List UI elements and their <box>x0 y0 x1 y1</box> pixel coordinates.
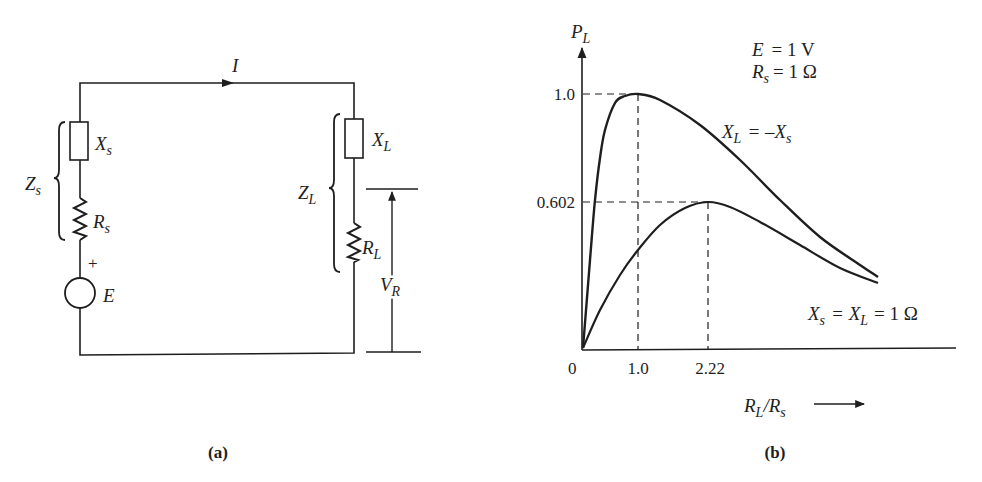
y-axis-label: PL <box>570 21 591 46</box>
power-chart: PL RL/Rs 0 1.0 2.22 1.0 0.602 E= 1 V Rs=… <box>537 21 956 462</box>
source-brace-icon <box>54 122 65 240</box>
source-reactance-box <box>70 122 88 160</box>
circuit-diagram: I + Xs Rs Zs E XL RL ZL VR (a) <box>25 55 421 462</box>
load-brace-icon <box>329 114 340 272</box>
tick-y-1: 1.0 <box>554 85 575 104</box>
curve1-label: XL= –Xs <box>721 121 792 146</box>
curve2-label: Xs= XL= 1 Ω <box>807 303 918 328</box>
vr-label: VR <box>380 274 401 299</box>
current-arrow-icon <box>222 79 234 87</box>
load-reactance-label: XL <box>371 129 392 154</box>
emf-label: E <box>102 285 115 306</box>
tick-x-1: 1.0 <box>627 359 648 378</box>
param-e: E= 1 V <box>751 39 815 60</box>
current-label: I <box>231 55 240 76</box>
load-resistor-icon <box>348 223 360 262</box>
tick-y-0-602: 0.602 <box>537 193 575 212</box>
voltage-source-icon <box>65 278 95 308</box>
param-rs: Rs= 1 Ω <box>751 61 817 86</box>
load-reactance-box <box>345 119 363 158</box>
tick-origin: 0 <box>568 359 577 378</box>
source-resistance-label: Rs <box>92 211 111 236</box>
caption-b: (b) <box>765 443 786 462</box>
tick-x-2-22: 2.22 <box>695 359 725 378</box>
polarity-plus: + <box>88 254 98 273</box>
curve-equal-reactance <box>583 202 878 348</box>
source-reactance-label: Xs <box>94 133 113 158</box>
figure-canvas: I + Xs Rs Zs E XL RL ZL VR (a) <box>0 0 982 482</box>
svg-text:RL/Rs: RL/Rs <box>743 395 786 420</box>
load-impedance-label: ZL <box>298 182 317 207</box>
load-resistance-label: RL <box>361 237 382 262</box>
source-impedance-label: Zs <box>25 173 42 198</box>
caption-a: (a) <box>208 443 228 462</box>
x-axis-label: RL/Rs <box>743 395 864 420</box>
bottom-wire <box>80 262 354 355</box>
top-wire <box>80 83 354 122</box>
source-resistor-icon <box>74 198 86 240</box>
